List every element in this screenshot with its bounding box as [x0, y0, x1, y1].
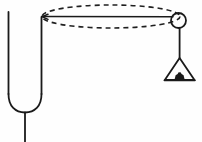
physics-diagram — [0, 0, 202, 142]
horizontal-string-group — [42, 14, 173, 19]
u-tube-assembly — [9, 12, 42, 142]
pulley-assembly — [171, 13, 186, 28]
u-tube-bend — [9, 94, 42, 113]
diagram-canvas — [0, 0, 202, 142]
weight-mass-knob-icon — [178, 72, 181, 75]
weight-hanger-assembly — [164, 28, 195, 80]
pulley-wheel — [171, 13, 186, 28]
